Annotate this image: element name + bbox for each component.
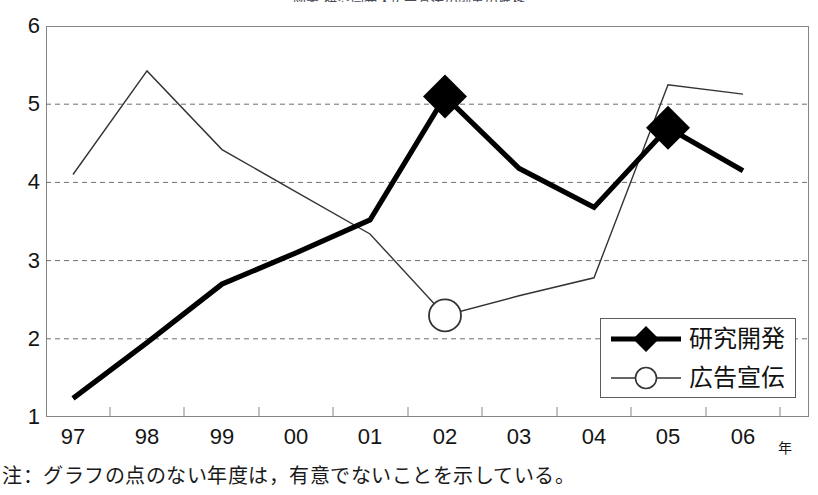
legend-sample-filled-diamond	[609, 319, 683, 359]
y-tick-6: 6	[6, 15, 40, 37]
series-line-koukoku-senden	[73, 71, 743, 316]
x-tick-04: 04	[564, 424, 624, 450]
chart-note: 注：グラフの点のない年度は，有意でないことを示している。	[2, 462, 575, 490]
y-tick-5: 5	[6, 93, 40, 115]
marker-open-circle-02	[429, 299, 461, 331]
chart-legend: 研究開発 広告宣伝	[600, 318, 796, 398]
x-tick-00: 00	[266, 424, 326, 450]
gridlines	[46, 104, 809, 339]
legend-label-kenkyu-kaihatsu: 研究開発	[689, 325, 785, 353]
x-axis: 97 98 99 00 01 02 03 04 05 06	[0, 424, 818, 458]
x-tick-01: 01	[340, 424, 400, 450]
x-tick-marks	[110, 407, 780, 417]
x-tick-05: 05	[638, 424, 698, 450]
legend-item-kenkyu-kaihatsu: 研究開発	[601, 319, 797, 359]
x-axis-unit-label: 年	[778, 437, 792, 457]
legend-item-koukoku-senden: 広告宣伝	[601, 358, 797, 398]
legend-label-koukoku-senden: 広告宣伝	[689, 364, 785, 392]
chart-title: 図表 研究開発・広告宣伝の効果の推移	[0, 0, 818, 2]
y-tick-2: 2	[6, 328, 40, 350]
y-tick-4: 4	[6, 171, 40, 193]
x-tick-99: 99	[192, 424, 252, 450]
x-tick-02: 02	[415, 424, 475, 450]
x-tick-97: 97	[43, 424, 103, 450]
y-tick-3: 3	[6, 250, 40, 272]
chart-figure: 図表 研究開発・広告宣伝の効果の推移 6 5 4 3 2 1	[0, 0, 818, 495]
x-tick-06: 06	[713, 424, 773, 450]
x-tick-98: 98	[117, 424, 177, 450]
x-tick-03: 03	[489, 424, 549, 450]
y-axis: 6 5 4 3 2 1	[0, 0, 40, 495]
legend-sample-open-circle	[609, 358, 683, 398]
